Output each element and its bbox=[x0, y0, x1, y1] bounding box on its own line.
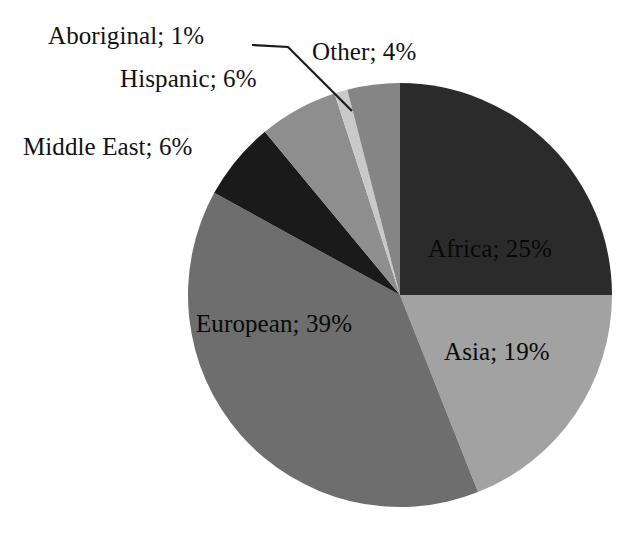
pie-slice-africa bbox=[400, 83, 612, 295]
slice-label-european: European; 39% bbox=[196, 310, 352, 338]
pie-chart-svg bbox=[0, 0, 628, 543]
slice-label-aboriginal: Aboriginal; 1% bbox=[48, 22, 204, 50]
slice-label-middle-east: Middle East; 6% bbox=[23, 133, 193, 161]
pie-chart-figure: Aboriginal; 1% Hispanic; 6% Middle East;… bbox=[0, 0, 628, 543]
slice-label-asia: Asia; 19% bbox=[444, 338, 550, 366]
slice-label-africa: Africa; 25% bbox=[428, 235, 552, 263]
pie-slice-group bbox=[188, 83, 612, 507]
slice-label-other: Other; 4% bbox=[312, 38, 416, 66]
slice-label-hispanic: Hispanic; 6% bbox=[120, 65, 257, 93]
